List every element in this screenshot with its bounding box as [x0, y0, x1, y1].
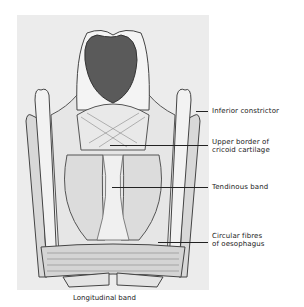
- label-circular-fibres: Circular fibres of oesophagus: [212, 232, 265, 248]
- leader-line-circular-fibres: [158, 242, 208, 243]
- label-inferior-constrictor: Inferior constrictor: [212, 107, 279, 115]
- label-tendinous-band: Tendinous band: [212, 183, 268, 191]
- label-upper-border-cricoid: Upper border of cricoid cartilage: [212, 138, 270, 154]
- caption-longitudinal-band: Longitudinal band: [73, 294, 136, 302]
- leader-line-upper-border-cricoid: [110, 145, 208, 146]
- anatomical-illustration: [17, 15, 209, 290]
- leader-line-inferior-constrictor: [196, 111, 208, 112]
- leader-line-tendinous-band: [112, 187, 208, 188]
- larynx-oesophagus-drawing: [17, 15, 209, 290]
